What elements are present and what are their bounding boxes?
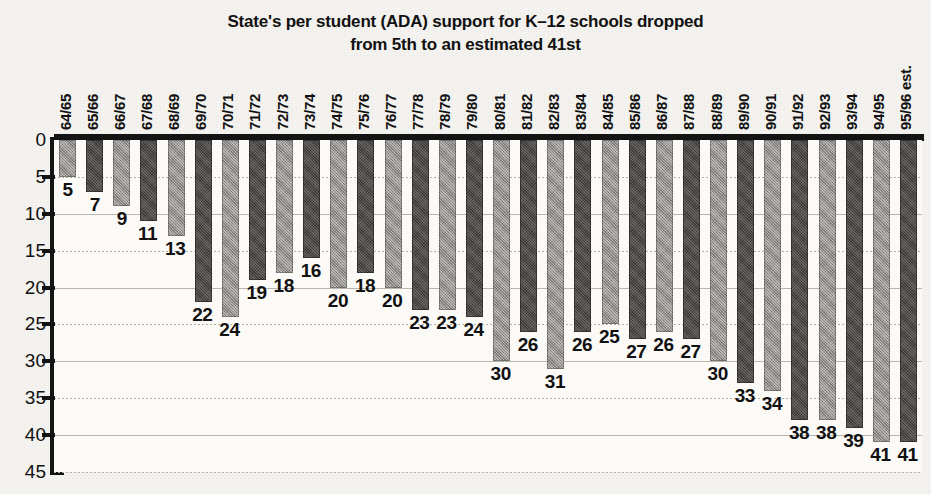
bar-value-label: 11 [138, 224, 157, 243]
bar-value-label: 20 [328, 291, 348, 310]
bar-value-label: 26 [572, 335, 592, 354]
bar-fill [520, 140, 537, 332]
bar-fill [195, 140, 212, 302]
bar-fill [629, 140, 646, 339]
bar [113, 140, 130, 206]
x-axis-label: 79/80 [463, 94, 480, 130]
y-axis-label-20: 20 [0, 278, 46, 297]
bar-value-label: 30 [708, 364, 728, 383]
bar-fill [222, 140, 239, 317]
bar-fill [737, 140, 754, 383]
bar [222, 140, 239, 317]
x-axis-label: 86/87 [653, 94, 670, 130]
bar-value-label: 22 [192, 305, 212, 324]
x-axis-label: 83/84 [572, 94, 589, 130]
x-axis-label: 80/81 [491, 94, 508, 130]
x-axis-label: 76/77 [382, 94, 399, 130]
bar-fill [86, 140, 103, 192]
bar-fill [683, 140, 700, 339]
bar-value-label: 39 [843, 431, 863, 450]
bar-fill [846, 140, 863, 428]
x-axis-label: 92/93 [816, 94, 833, 130]
x-axis-label: 69/70 [192, 94, 209, 130]
x-axis-label: 81/82 [518, 94, 535, 130]
bar-fill [656, 140, 673, 332]
bar [737, 140, 754, 383]
bar-value-label: 23 [436, 313, 456, 332]
plot-area: 5791113222419181620182023232430263126252… [54, 140, 922, 472]
x-axis-label: 64/65 [57, 94, 74, 130]
bar [493, 140, 510, 361]
bar-fill [439, 140, 456, 310]
y-axis-label-40: 40 [0, 425, 46, 444]
bar-fill [357, 140, 374, 273]
x-axis-label: 74/75 [328, 94, 345, 130]
bar [629, 140, 646, 339]
bar-value-label: 41 [870, 445, 890, 464]
y-axis-label-0: 0 [0, 130, 46, 149]
x-axis-label: 78/79 [436, 94, 453, 130]
bar [819, 140, 836, 420]
bar-fill [819, 140, 836, 420]
x-axis-label: 94/95 [870, 94, 887, 130]
bar-value-label: 38 [789, 423, 809, 442]
x-axis-label: 70/71 [219, 94, 236, 130]
bar-fill [710, 140, 727, 361]
bar-value-label: 24 [219, 320, 239, 339]
x-axis-label: 65/66 [84, 94, 101, 130]
bar-value-label: 27 [626, 342, 646, 361]
bar-value-label: 26 [653, 335, 673, 354]
y-axis-label-10: 10 [0, 204, 46, 223]
x-axis-label: 82/83 [545, 94, 562, 130]
bar [357, 140, 374, 273]
x-axis-label: 68/69 [165, 94, 182, 130]
bar-fill [140, 140, 157, 221]
x-axis-label: 73/74 [301, 94, 318, 130]
bar-fill [547, 140, 564, 369]
x-axis-label: 89/90 [735, 94, 752, 130]
y-axis-label-25: 25 [0, 314, 46, 333]
bar-fill [493, 140, 510, 361]
bar [140, 140, 157, 221]
bar-fill [602, 140, 619, 324]
bar [602, 140, 619, 324]
bar-value-label: 27 [680, 342, 700, 361]
bar-fill [764, 140, 781, 391]
bar-value-label: 30 [491, 364, 511, 383]
bar-value-label: 24 [463, 320, 483, 339]
bar [303, 140, 320, 258]
bar [168, 140, 185, 236]
bar-value-label: 16 [301, 261, 321, 280]
x-axis-label: 87/88 [680, 94, 697, 130]
bar-fill [466, 140, 483, 317]
bar [195, 140, 212, 302]
bar-value-label: 38 [816, 423, 836, 442]
y-axis-label-15: 15 [0, 241, 46, 260]
bar [439, 140, 456, 310]
bar [466, 140, 483, 317]
bar [710, 140, 727, 361]
bar-fill [412, 140, 429, 310]
bar [276, 140, 293, 273]
x-axis-label: 88/89 [708, 94, 725, 130]
bar-value-label: 23 [409, 313, 429, 332]
bar-value-label: 7 [90, 195, 100, 214]
bar [385, 140, 402, 288]
y-axis-label-5: 5 [0, 167, 46, 186]
bar-fill [276, 140, 293, 273]
bar-value-label: 25 [599, 327, 619, 346]
x-axis-label: 84/85 [599, 94, 616, 130]
bar [520, 140, 537, 332]
bar [547, 140, 564, 369]
bar-value-label: 20 [382, 291, 402, 310]
bar [656, 140, 673, 332]
bar-fill [168, 140, 185, 236]
bar-value-label: 19 [246, 283, 266, 302]
bar [249, 140, 266, 280]
x-axis-label: 90/91 [762, 94, 779, 130]
bar-value-label: 34 [762, 394, 782, 413]
x-axis-label: 75/76 [355, 94, 372, 130]
y-axis-label-30: 30 [0, 351, 46, 370]
y-axis-label-45: 45 [0, 462, 46, 481]
x-axis-label: 71/72 [246, 94, 263, 130]
